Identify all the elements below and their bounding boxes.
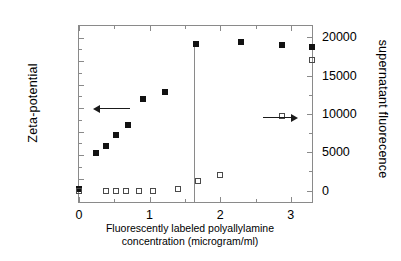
x-tick-top-minor bbox=[256, 26, 257, 29]
x-tick-label: 0 bbox=[64, 208, 94, 222]
data-point-zeta-potential bbox=[113, 132, 119, 138]
right-axis-arrow bbox=[263, 117, 293, 118]
zeta-potential-fluorescence-chart: Zeta-potential supernatant fluorecence F… bbox=[0, 0, 401, 261]
y-tick-right bbox=[307, 37, 312, 38]
left-axis-title: Zeta-potential bbox=[26, 8, 40, 198]
y-tick-left bbox=[79, 85, 84, 86]
x-tick-bottom-minor bbox=[114, 199, 115, 202]
y-tick-right bbox=[307, 191, 312, 192]
y-tick-left bbox=[79, 179, 84, 180]
y-tick-label-right: 5000 bbox=[322, 145, 382, 159]
data-point-zeta-potential bbox=[193, 41, 199, 47]
data-point-zeta-potential bbox=[140, 96, 146, 102]
y-tick-left-minor bbox=[79, 49, 82, 50]
x-tick-top bbox=[291, 26, 292, 31]
data-point-fluorescence bbox=[76, 188, 82, 194]
x-tick-label: 2 bbox=[205, 208, 235, 222]
x-tick-top-minor bbox=[185, 26, 186, 29]
y-tick-left bbox=[79, 132, 84, 133]
y-tick-right-minor bbox=[309, 133, 312, 134]
x-tick-bottom bbox=[150, 197, 151, 202]
y-tick-label-right: 0 bbox=[322, 184, 382, 198]
x-axis-title-line2: concentration (microgram/ml) bbox=[60, 235, 320, 248]
x-axis-title: Fluorescently labeled polyallylamine con… bbox=[60, 222, 320, 248]
x-tick-top bbox=[220, 26, 221, 31]
y-tick-right-minor bbox=[309, 95, 312, 96]
data-point-fluorescence bbox=[309, 57, 315, 63]
y-tick-left-minor bbox=[79, 143, 82, 144]
y-tick-label-right: 15000 bbox=[322, 69, 382, 83]
x-axis-title-line1: Fluorescently labeled polyallylamine bbox=[60, 222, 320, 235]
x-tick-label: 3 bbox=[276, 208, 306, 222]
x-tick-label: 1 bbox=[135, 208, 165, 222]
y-tick-left bbox=[79, 155, 84, 156]
x-tick-top bbox=[150, 26, 151, 31]
y-tick-left-minor bbox=[79, 167, 82, 168]
data-point-zeta-potential bbox=[238, 39, 244, 45]
y-tick-left-minor bbox=[79, 96, 82, 97]
data-point-fluorescence bbox=[113, 188, 119, 194]
x-tick-bottom bbox=[79, 197, 80, 202]
x-tick-top bbox=[79, 26, 80, 31]
x-tick-top-minor bbox=[114, 26, 115, 29]
x-tick-bottom bbox=[220, 197, 221, 202]
y-tick-right bbox=[307, 114, 312, 115]
y-tick-label-right: 10000 bbox=[322, 107, 382, 121]
y-tick-right-minor bbox=[309, 171, 312, 172]
data-point-zeta-potential bbox=[162, 89, 168, 95]
y-tick-left bbox=[79, 61, 84, 62]
data-point-zeta-potential bbox=[103, 143, 109, 149]
y-tick-left bbox=[79, 108, 84, 109]
data-point-fluorescence bbox=[103, 188, 109, 194]
data-point-fluorescence bbox=[136, 188, 142, 194]
data-point-fluorescence bbox=[195, 178, 201, 184]
data-point-fluorescence bbox=[150, 188, 156, 194]
x-tick-bottom-minor bbox=[185, 199, 186, 202]
y-tick-right bbox=[307, 152, 312, 153]
x-tick-bottom bbox=[291, 197, 292, 202]
data-point-fluorescence bbox=[217, 172, 223, 178]
x-tick-bottom-minor bbox=[256, 199, 257, 202]
y-tick-right bbox=[307, 76, 312, 77]
data-point-fluorescence bbox=[123, 188, 129, 194]
y-tick-left-minor bbox=[79, 120, 82, 121]
plot-area: 6040200-20-40-60-80050001000015000200000… bbox=[78, 25, 313, 203]
y-tick-label-right: 20000 bbox=[322, 30, 382, 44]
data-point-zeta-potential bbox=[125, 122, 131, 128]
y-tick-left bbox=[79, 38, 84, 39]
y-tick-left-minor bbox=[79, 73, 82, 74]
left-axis-arrow bbox=[99, 108, 129, 109]
data-point-fluorescence bbox=[175, 186, 181, 192]
data-point-zeta-potential bbox=[93, 150, 99, 156]
data-point-zeta-potential bbox=[279, 42, 285, 48]
data-point-zeta-potential bbox=[309, 44, 315, 50]
y-tick-left bbox=[79, 202, 84, 203]
